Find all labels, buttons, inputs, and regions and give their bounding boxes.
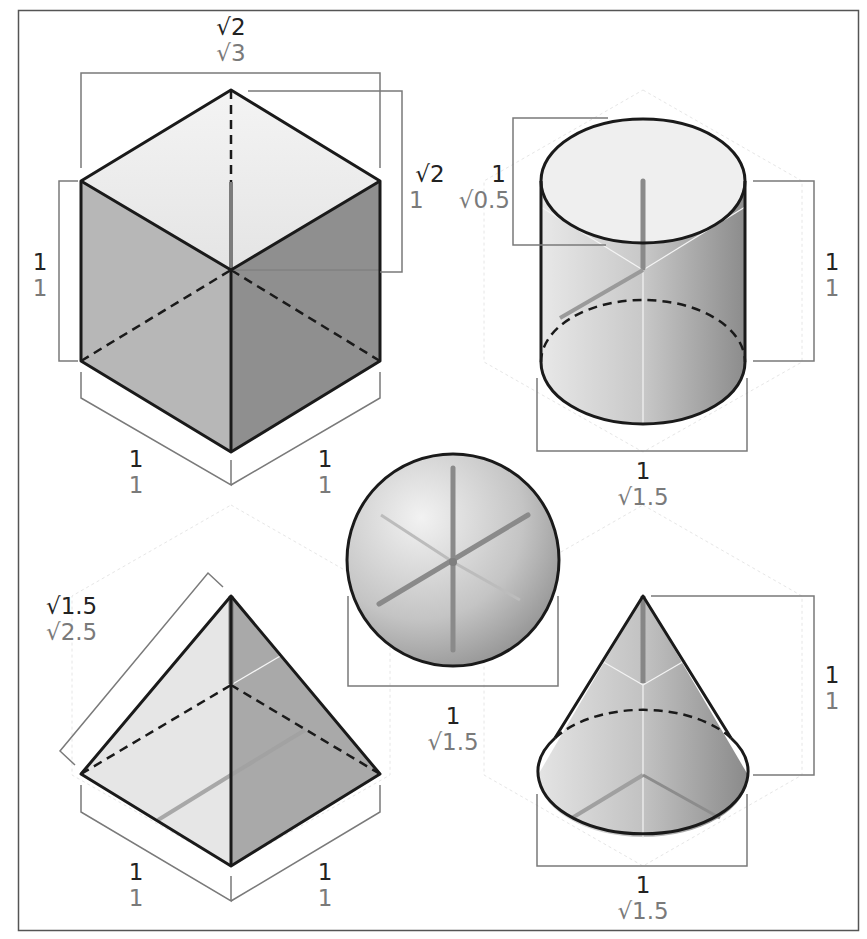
pyramid-slant-dim-primary: √1.5 [46, 593, 116, 619]
cube-top-dim-label: √2 √3 [206, 14, 256, 66]
sphere-dim-secondary: √1.5 [413, 729, 493, 755]
cylinder-right-dim-primary: 1 [816, 249, 848, 275]
cone-bottom-dim-secondary: √1.5 [603, 898, 683, 924]
cylinder-right-dim-secondary: 1 [816, 275, 848, 301]
cylinder-top-left-dim-label: 1 √0.5 [440, 161, 510, 213]
cube-left-dim-primary: 1 [24, 249, 56, 275]
cube-left-dim-line [59, 181, 78, 361]
cylinder-bottom-dim-label: 1 √1.5 [603, 458, 683, 510]
cone-right-dim-label: 1 1 [816, 662, 848, 714]
cube-top-dim-primary: √2 [206, 14, 256, 40]
cube-bottom-left-dim-secondary: 1 [120, 472, 152, 498]
sphere-dim-label: 1 √1.5 [413, 703, 493, 755]
cube-bottom-left-dim-primary: 1 [120, 446, 152, 472]
cone-bottom-dim-label: 1 √1.5 [603, 872, 683, 924]
pyramid-bottom-right-dim-label: 1 1 [309, 859, 341, 911]
cone-right-dim-secondary: 1 [816, 688, 848, 714]
cone-bottom-dim-primary: 1 [603, 872, 683, 898]
pyramid-bottom-left-dim-primary: 1 [120, 859, 152, 885]
pyramid-bottom-right-dim-secondary: 1 [309, 885, 341, 911]
cone-right-dim-primary: 1 [816, 662, 848, 688]
cube-bottom-left-dim-label: 1 1 [120, 446, 152, 498]
cylinder-right-dim-line [753, 181, 814, 361]
cube-shape [59, 73, 402, 485]
pyramid-bottom-right-dim-primary: 1 [309, 859, 341, 885]
pyramid-slant-dim-label: √1.5 √2.5 [46, 593, 116, 645]
cylinder-top-left-dim-primary: 1 [440, 161, 510, 187]
cube-bottom-right-dim-secondary: 1 [309, 472, 341, 498]
cube-bottom-right-dim-primary: 1 [309, 446, 341, 472]
cube-top-dim-secondary: √3 [206, 40, 256, 66]
cube-left-dim-label: 1 1 [24, 249, 56, 301]
cylinder-bottom-dim-secondary: √1.5 [603, 484, 683, 510]
cone-shape [537, 596, 814, 866]
cylinder-bottom-dim-primary: 1 [603, 458, 683, 484]
cube-left-dim-secondary: 1 [24, 275, 56, 301]
pyramid-bottom-left-dim-secondary: 1 [120, 885, 152, 911]
sphere-dim-primary: 1 [413, 703, 493, 729]
cylinder-right-dim-label: 1 1 [816, 249, 848, 301]
pyramid-bottom-left-dim-label: 1 1 [120, 859, 152, 911]
sphere-shape [347, 454, 559, 686]
cube-bottom-right-dim-label: 1 1 [309, 446, 341, 498]
pyramid-slant-dim-secondary: √2.5 [46, 619, 116, 645]
cylinder-top-left-dim-secondary: √0.5 [440, 187, 510, 213]
cylinder-shape [513, 118, 814, 451]
